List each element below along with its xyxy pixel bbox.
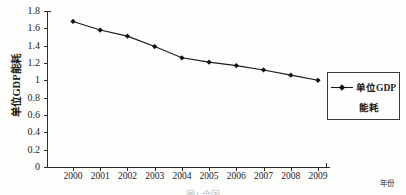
y-tick-label: 0.8 <box>28 93 41 103</box>
legend-entry: 单位GDP <box>331 80 396 94</box>
legend-label-line1: 单位GDP <box>356 80 396 94</box>
y-tick-label: 1.8 <box>28 6 41 16</box>
y-tick-label: 1 <box>35 75 40 85</box>
x-axis-title: 年份 <box>380 177 394 188</box>
y-axis-title: 单位GDP能耗 <box>8 54 23 116</box>
legend-label-line2: 能耗 <box>328 100 399 114</box>
series-line <box>73 21 318 80</box>
data-point <box>70 19 75 24</box>
x-tick-label: 2000 <box>64 172 83 182</box>
data-point <box>261 67 266 72</box>
data-point <box>98 27 103 32</box>
chart-figure: 单位GDP能耗 00.20.40.60.811.21.41.61.8 20002… <box>0 0 406 195</box>
y-tick-label: 0.6 <box>28 110 41 120</box>
x-tick-label: 2004 <box>172 172 191 182</box>
legend-line-marker-icon <box>331 83 353 92</box>
data-point <box>152 44 157 49</box>
x-tick-label: 2009 <box>309 172 328 182</box>
y-tick-label: 1.4 <box>28 41 41 51</box>
data-point <box>179 55 184 60</box>
y-axis-title-container: 单位GDP能耗 <box>4 0 26 170</box>
y-tick-label: 0 <box>35 162 40 172</box>
data-series-energy-intensity <box>47 11 330 168</box>
x-tick-label: 2003 <box>145 172 164 182</box>
x-tick-label: 2001 <box>91 172 110 182</box>
data-point <box>288 73 293 78</box>
data-point <box>315 78 320 83</box>
y-tick-label: 1.2 <box>28 58 41 68</box>
data-point <box>125 34 130 39</box>
x-tick-label: 2005 <box>200 172 219 182</box>
x-tick-label: 2006 <box>227 172 246 182</box>
figure-caption: 图1 全国 <box>0 188 406 195</box>
data-point <box>234 63 239 68</box>
x-tick-label: 2008 <box>281 172 300 182</box>
data-point <box>207 60 212 65</box>
plot-area: 00.20.40.60.811.21.41.61.8 2000200120022… <box>47 11 330 168</box>
x-tick-label: 2002 <box>118 172 137 182</box>
chart-legend: 单位GDP 能耗 <box>327 72 400 120</box>
x-tick-label: 2007 <box>254 172 273 182</box>
y-tick-label: 0.4 <box>28 127 41 137</box>
y-tick-label: 1.6 <box>28 23 41 33</box>
y-tick-label: 0.2 <box>28 145 41 155</box>
